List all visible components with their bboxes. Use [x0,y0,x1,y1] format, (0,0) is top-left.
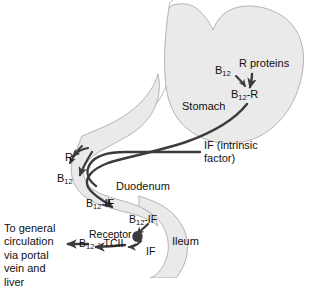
label-b12-if-duodenum: B12-IF [86,198,114,211]
label-b12-duodenum: B12 [57,172,73,186]
label-stomach: Stomach [182,100,225,112]
label-if-intrinsic-factor: IF (intrinsic factor) [204,139,276,166]
label-ileum: Ileum [172,235,199,247]
label-b12-if-ileum: B12-IF [129,214,157,227]
label-b12-tcii: B12 · TCII [79,238,123,251]
label-portal-circulation: To general circulation via portal vein a… [4,222,66,289]
stomach-shape [165,4,304,144]
label-b12-r: B12-R [231,88,258,102]
receptor-dot [132,231,142,242]
arrow-if-dissociation [129,241,141,247]
label-r-proteins: R proteins [239,57,289,69]
label-r-released: R [65,151,73,163]
label-if-ileum: IF [146,246,155,258]
label-b12-stomach: B12 [215,64,231,78]
label-duodenum: Duodenum [116,180,170,192]
